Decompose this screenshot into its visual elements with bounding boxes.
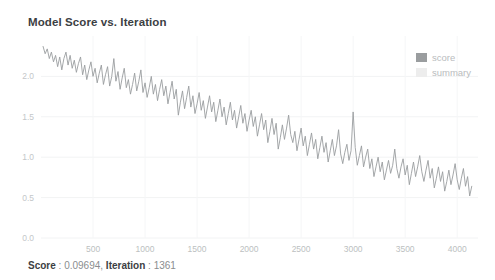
series-lines	[43, 46, 472, 196]
series-line-score	[43, 46, 472, 196]
x-axis-tick-label: 1500	[177, 244, 217, 254]
legend-item-label: score	[432, 52, 455, 63]
score-value: 0.09694	[64, 260, 100, 271]
x-axis-tick-label: 500	[73, 244, 113, 254]
gridlines	[41, 36, 478, 238]
x-axis-tick-label: 3500	[385, 244, 425, 254]
x-axis-tick-label: 3000	[333, 244, 373, 254]
chart-svg	[0, 0, 495, 255]
chart-legend[interactable]: scoresummary	[416, 52, 471, 78]
y-axis-tick-label: 1.5	[8, 112, 34, 122]
y-axis-tick-label: 0.0	[8, 233, 34, 243]
legend-item-score[interactable]: score	[416, 52, 455, 63]
chart-panel: Model Score vs. Iteration 0.00.51.01.52.…	[0, 0, 495, 280]
iteration-label: Iteration	[106, 260, 145, 271]
score-separator: :	[56, 260, 64, 271]
x-axis-tick-label: 2500	[281, 244, 321, 254]
x-axis-tick-label: 4000	[437, 244, 477, 254]
plot-area[interactable]: 0.00.51.01.52.0 500100015002000250030003…	[0, 0, 495, 255]
iteration-separator: :	[145, 260, 153, 271]
x-axis-tick-label: 1000	[125, 244, 165, 254]
status-readout: Score : 0.09694, Iteration : 1361	[28, 260, 176, 271]
x-axis-tick-label: 2000	[229, 244, 269, 254]
legend-swatch-icon	[416, 68, 427, 77]
iteration-value: 1361	[154, 260, 176, 271]
legend-item-summary[interactable]: summary	[416, 67, 471, 78]
y-axis-tick-label: 0.5	[8, 193, 34, 203]
legend-swatch-icon	[416, 53, 427, 62]
legend-item-label: summary	[432, 67, 471, 78]
score-label: Score	[28, 260, 56, 271]
y-axis-tick-label: 1.0	[8, 152, 34, 162]
y-axis-tick-label: 2.0	[8, 71, 34, 81]
